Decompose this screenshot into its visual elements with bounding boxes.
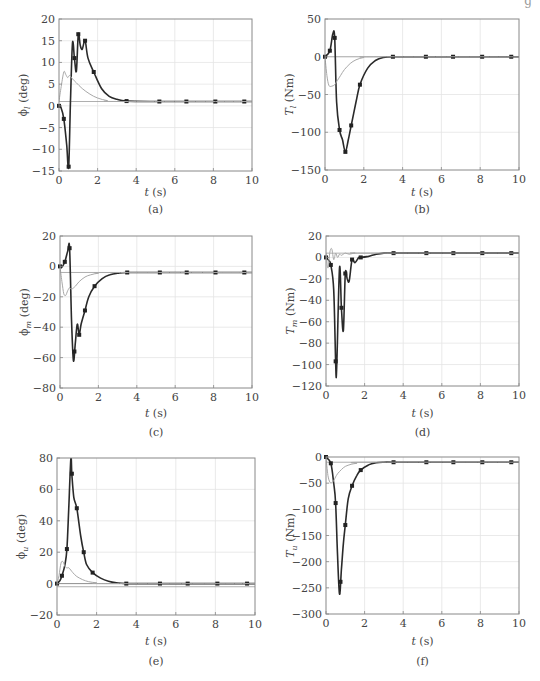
x-tick-label: 0 <box>57 391 64 404</box>
y-tick-label: 0 <box>314 51 321 64</box>
series-line-primary <box>326 253 519 378</box>
series-marker <box>358 83 362 87</box>
x-tick-label: 10 <box>245 174 259 187</box>
y-axis-label: ϕm (deg) <box>18 288 33 336</box>
y-tick-label: −50 <box>298 89 321 102</box>
x-axis-label: t (s) <box>411 186 433 199</box>
y-tick-label: −40 <box>299 294 322 307</box>
x-tick-label: 10 <box>245 391 259 404</box>
plot-frame <box>57 458 255 615</box>
y-tick-label: 50 <box>307 13 321 26</box>
grid-lines <box>325 19 519 170</box>
subplot-caption: (a) <box>148 203 163 216</box>
series-marker <box>91 571 95 575</box>
series-marker <box>350 258 354 262</box>
x-tick-label: 10 <box>512 617 526 630</box>
y-axis-label: Tu (Nm) <box>284 513 299 558</box>
series-line-primary <box>326 457 519 594</box>
y-tick-label: −10 <box>32 143 55 156</box>
y-tick-label: 60 <box>39 483 53 496</box>
x-tick-label: 10 <box>512 389 526 402</box>
series-line-secondary <box>325 57 519 87</box>
subplot-c: 0246810−80−60−40−20020t (s)ϕm (deg)(c) <box>18 230 259 439</box>
x-tick-label: 4 <box>133 618 140 631</box>
y-tick-label: 5 <box>48 78 55 91</box>
x-tick-label: 8 <box>477 173 484 186</box>
x-tick-label: 6 <box>438 173 445 186</box>
x-tick-label: 4 <box>399 173 406 186</box>
x-tick-label: 0 <box>56 174 63 187</box>
series-marker <box>60 574 64 578</box>
subplot-caption: (b) <box>414 203 430 216</box>
plot-frame <box>60 236 252 388</box>
y-tick-label: 0 <box>48 100 55 113</box>
series-line-primary <box>60 243 252 361</box>
y-tick-label: 0 <box>49 260 56 273</box>
series-marker <box>93 284 97 288</box>
series-marker <box>334 501 338 505</box>
y-axis-label: ϕl (deg) <box>17 74 32 117</box>
y-tick-label: 15 <box>41 35 55 48</box>
x-tick-label: 2 <box>361 617 368 630</box>
subplot-a: 0246810−15−10−505101520t (s)ϕl (deg)(a) <box>17 13 259 216</box>
series-marker <box>62 117 66 121</box>
subplot-caption: (f) <box>416 655 429 668</box>
x-axis-label: t (s) <box>145 407 167 420</box>
series-marker <box>329 461 333 465</box>
y-tick-label: 0 <box>315 251 322 264</box>
series-line-secondary <box>60 266 252 295</box>
x-axis-label: t (s) <box>411 635 433 648</box>
series-marker <box>328 49 332 53</box>
y-tick-label: −80 <box>299 337 322 350</box>
y-tick-label: −150 <box>291 164 321 177</box>
series-marker <box>343 150 347 154</box>
y-tick-label: −80 <box>33 382 56 395</box>
y-tick-label: −50 <box>299 477 322 490</box>
y-tick-label: −120 <box>292 380 322 393</box>
y-tick-label: 10 <box>41 56 55 69</box>
y-tick-label: 0 <box>315 451 322 464</box>
y-tick-label: −5 <box>39 122 55 135</box>
x-tick-label: 2 <box>93 618 100 631</box>
y-tick-label: 0 <box>46 578 53 591</box>
y-tick-label: −60 <box>299 316 322 329</box>
x-tick-label: 6 <box>438 617 445 630</box>
x-tick-label: 6 <box>171 174 178 187</box>
series-marker <box>72 350 76 354</box>
x-tick-label: 2 <box>94 174 101 187</box>
x-tick-label: 6 <box>438 389 445 402</box>
grid-lines <box>59 19 252 171</box>
figure-grid: 0246810−15−10−505101520t (s)ϕl (deg)(a) … <box>0 0 540 681</box>
series-marker <box>92 70 96 74</box>
x-tick-label: 2 <box>361 389 368 402</box>
y-axis-label: Tm (Nm) <box>284 287 299 334</box>
x-tick-label: 4 <box>133 174 140 187</box>
grid-lines <box>326 236 519 386</box>
y-tick-label: −60 <box>33 352 56 365</box>
grid-lines <box>60 236 252 388</box>
series-line-secondary <box>326 248 519 268</box>
x-tick-label: 2 <box>360 173 367 186</box>
y-axis-label: Tl (Nm) <box>283 73 298 115</box>
x-tick-label: 0 <box>323 617 330 630</box>
series-line-primary <box>59 33 252 168</box>
x-tick-label: 4 <box>133 391 140 404</box>
y-tick-label: 20 <box>41 13 55 26</box>
series-marker <box>65 547 69 551</box>
series-marker <box>75 506 79 510</box>
subplot-caption: (d) <box>415 426 431 439</box>
series-marker <box>76 32 80 36</box>
series-marker <box>359 468 363 472</box>
x-tick-label: 0 <box>322 173 329 186</box>
subplot-caption: (c) <box>149 426 164 439</box>
y-tick-label: −15 <box>32 165 55 178</box>
subplot-caption: (e) <box>148 655 163 668</box>
y-tick-label: 20 <box>308 230 322 243</box>
x-tick-label: 8 <box>210 174 217 187</box>
series-marker <box>350 484 354 488</box>
x-tick-label: 2 <box>95 391 102 404</box>
x-tick-label: 4 <box>400 617 407 630</box>
y-tick-label: 20 <box>39 546 53 559</box>
series-line-secondary <box>59 71 252 101</box>
series-marker <box>349 123 353 127</box>
